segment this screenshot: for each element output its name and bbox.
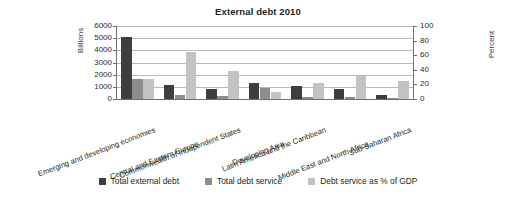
x-axis-category-labels: Emerging and developing economiesCentral… (0, 99, 516, 161)
legend-swatch-icon (308, 178, 315, 185)
bar-group (329, 26, 372, 99)
chart-container: External debt 2010 Billions Percent 0100… (0, 0, 516, 201)
bar (356, 76, 367, 99)
bar (164, 85, 175, 99)
y-tick-mark-right (414, 55, 417, 56)
y-tick-label-right: 100 (420, 22, 450, 30)
chart-legend: Total external debtTotal debt serviceDeb… (0, 176, 516, 186)
legend-item[interactable]: Total debt service (205, 176, 282, 186)
legend-label: Debt service as % of GDP (320, 176, 417, 186)
legend-swatch-icon (99, 178, 106, 185)
bar (186, 52, 197, 99)
legend-label: Total external debt (111, 176, 179, 186)
y-tick-label-left: 1000 (82, 83, 112, 91)
y-tick-label-left: 2000 (82, 71, 112, 79)
bar (271, 92, 282, 99)
bar (228, 71, 239, 99)
bar-group (159, 26, 202, 99)
bar (313, 83, 324, 99)
legend-swatch-icon (205, 178, 212, 185)
bar-group (201, 26, 244, 99)
y-tick-label-right: 60 (420, 51, 450, 59)
legend-label: Total debt service (217, 176, 282, 186)
y-tick-mark-right (414, 26, 417, 27)
bar (291, 86, 302, 99)
bar (260, 88, 271, 99)
y-tick-label-left: 3000 (82, 59, 112, 67)
y-tick-label-right: 80 (420, 37, 450, 45)
bar-group (116, 26, 159, 99)
bar (206, 89, 217, 99)
y-tick-label-right: 40 (420, 66, 450, 74)
y-tick-label-right: 20 (420, 80, 450, 88)
bar-group (244, 26, 287, 99)
legend-item[interactable]: Total external debt (99, 176, 179, 186)
x-axis-label: Sub-Saharan Africa (348, 125, 413, 157)
y-tick-label-left: 4000 (82, 46, 112, 54)
bar (143, 79, 154, 99)
y-tick-label-left: 5000 (82, 34, 112, 42)
bar (121, 37, 132, 99)
y-tick-mark-right (414, 84, 417, 85)
y-axis-right-title: Percent (487, 18, 496, 72)
bar-group (371, 26, 414, 99)
bar-group (286, 26, 329, 99)
bar (334, 89, 345, 99)
y-tick-mark-right (414, 70, 417, 71)
bar (132, 79, 143, 99)
y-tick-label-left: 6000 (82, 22, 112, 30)
bar (249, 83, 260, 99)
plot-area (116, 26, 414, 99)
legend-item[interactable]: Debt service as % of GDP (308, 176, 417, 186)
y-tick-mark-right (414, 41, 417, 42)
bar (398, 81, 409, 99)
